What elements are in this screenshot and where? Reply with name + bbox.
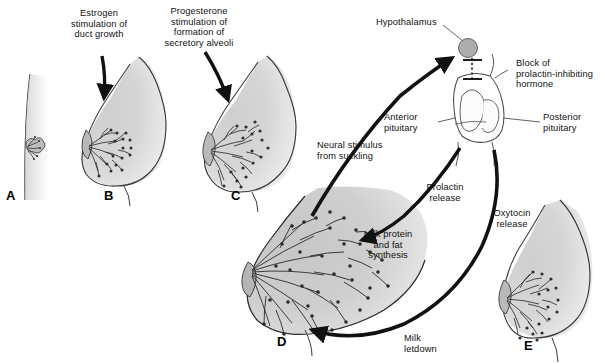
prolactin-inhibiting-tract [463, 58, 482, 82]
label-neural-stimulus-from-suckling: Neural stimulus from suckling [317, 140, 409, 161]
label-milk-protein-and-fat-synthesis: Milk protein and fat synthesis [352, 229, 424, 261]
label-milk-letdown: Milk letdown [404, 333, 460, 354]
label-hypothalamus: Hypothalamus [376, 17, 454, 28]
panel-letter-e: E [524, 338, 533, 353]
label-anterior-pituitary: Anterior pituitary [384, 112, 440, 133]
panel-c-graphic [203, 56, 297, 212]
progesterone-arrow [205, 52, 228, 100]
posterior-pituitary-leader [503, 118, 540, 122]
label-prolactin-release: Prolactin release [414, 182, 476, 203]
label-block-prolactin-inhibiting-hormone: Block of prolactin-inhibiting hormone [516, 58, 605, 90]
label-oxytocin-release: Oxytocin release [481, 208, 543, 229]
panel-a-graphic [25, 74, 49, 200]
lactation-diagram [0, 0, 605, 364]
panel-letter-c: C [231, 188, 240, 203]
panel-letter-b: B [104, 188, 113, 203]
panel-d-graphic [242, 186, 427, 356]
panel-letter-a: A [6, 188, 15, 203]
panel-letter-d: D [277, 334, 286, 349]
panel-b-graphic [82, 57, 167, 206]
anterior-pituitary-leader [438, 118, 455, 122]
label-posterior-pituitary: Posterior pituitary [543, 112, 603, 133]
hypothalamus-circle [459, 39, 478, 58]
label-progesterone-stimulation: Progesterone stimulation of formation of… [140, 6, 258, 48]
block-label-leader [495, 70, 508, 78]
estrogen-arrow [102, 56, 105, 98]
label-estrogen-stimulation: Estrogen stimulation of duct growth [48, 8, 150, 40]
